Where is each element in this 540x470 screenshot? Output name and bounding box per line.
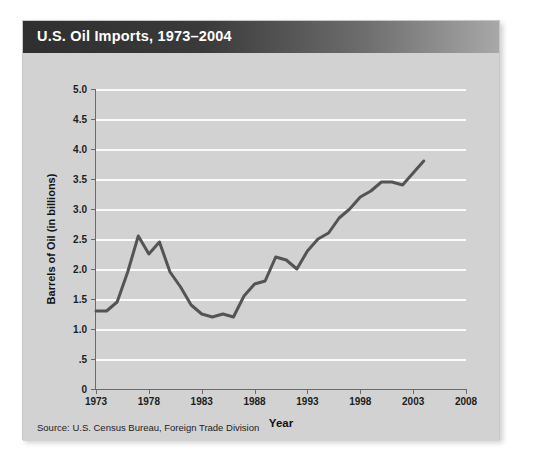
page-title: U.S. Oil Imports, 1973–2004 <box>37 28 232 44</box>
x-tick-mark <box>413 389 414 394</box>
x-tick-mark <box>96 389 97 394</box>
screenshot-root: U.S. Oil Imports, 1973–2004 Barrels of O… <box>0 0 540 470</box>
x-tick-label: 1978 <box>138 396 160 407</box>
x-tick-label: 1998 <box>349 396 371 407</box>
y-tick-label: 3.0 <box>73 204 87 215</box>
y-axis-title: Barrels of Oil (in billions) <box>45 174 57 305</box>
card-body: Barrels of Oil (in billions) 0.51.01.52.… <box>23 53 499 441</box>
y-tick-label: 3.5 <box>73 174 87 185</box>
x-tick-label: 2003 <box>402 396 424 407</box>
y-tick-label: 4.0 <box>73 144 87 155</box>
plot-area: 0.51.01.52.02.53.03.54.04.55.0 197319781… <box>96 89 466 389</box>
x-tick-mark <box>360 389 361 394</box>
y-tick-label: .5 <box>79 354 87 365</box>
data-series-line <box>96 89 466 389</box>
y-tick-label: 2.0 <box>73 264 87 275</box>
y-tick-label: 1.0 <box>73 324 87 335</box>
y-tick-label: 5.0 <box>73 84 87 95</box>
x-tick-mark <box>307 389 308 394</box>
x-tick-label: 2008 <box>455 396 477 407</box>
series-polyline <box>96 161 424 317</box>
x-tick-mark <box>255 389 256 394</box>
card-header: U.S. Oil Imports, 1973–2004 <box>23 21 499 53</box>
x-axis-line <box>96 389 466 390</box>
y-tick-label: 0 <box>81 384 87 395</box>
x-tick-mark <box>202 389 203 394</box>
y-tick-label: 1.5 <box>73 294 87 305</box>
x-axis-title: Year <box>269 417 293 429</box>
source-note: Source: U.S. Census Bureau, Foreign Trad… <box>37 422 259 433</box>
x-tick-label: 1983 <box>191 396 213 407</box>
y-tick-label: 4.5 <box>73 114 87 125</box>
chart-card: U.S. Oil Imports, 1973–2004 Barrels of O… <box>22 20 500 440</box>
x-tick-label: 1973 <box>85 396 107 407</box>
y-tick-label: 2.5 <box>73 234 87 245</box>
line-chart: Barrels of Oil (in billions) 0.51.01.52.… <box>23 53 501 441</box>
x-tick-mark <box>466 389 467 394</box>
x-tick-label: 1988 <box>243 396 265 407</box>
x-tick-mark <box>149 389 150 394</box>
x-tick-label: 1993 <box>296 396 318 407</box>
